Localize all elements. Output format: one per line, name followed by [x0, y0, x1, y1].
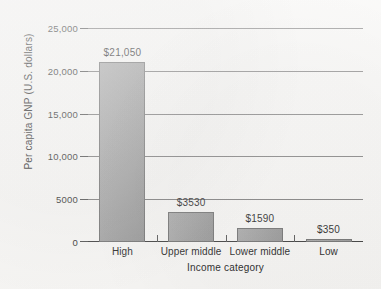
y-tick-label-0: 0: [73, 237, 78, 248]
y-axis-tick-labels: 25,000 20,000 15,000 10,000 5000 0: [0, 28, 82, 242]
x-separator-tick-2: [226, 235, 227, 242]
bar-high[interactable]: [99, 62, 145, 242]
y-tick-mark-0: [80, 241, 88, 242]
bar-value-low: $350: [317, 224, 340, 235]
bar-lower-middle[interactable]: [237, 228, 283, 242]
y-tick-mark-10000: [80, 156, 88, 157]
x-label-high: High: [112, 246, 133, 257]
y-tick-mark-25000: [80, 28, 88, 29]
x-separator-tick-1: [157, 235, 158, 242]
bar-value-lower-middle: $1590: [245, 213, 274, 224]
bar-value-high: $21,050: [104, 47, 142, 58]
y-tick-mark-20000: [80, 71, 88, 72]
x-label-low: Low: [319, 246, 338, 257]
y-tick-label-5000: 5000: [56, 194, 78, 205]
y-tick-mark-5000: [80, 199, 88, 200]
y-tick-label-10000: 10,000: [48, 151, 78, 162]
gridline-25000: [88, 28, 363, 29]
y-tick-label-25000: 25,000: [48, 23, 78, 34]
y-tick-mark-15000: [80, 114, 88, 115]
bar-value-upper-middle: $3530: [177, 197, 206, 208]
y-tick-label-20000: 20,000: [48, 65, 78, 76]
bar-low[interactable]: [306, 239, 352, 242]
bar-chart-figure: Per capita GNP (U.S. dollars) 25,000 20,…: [0, 0, 381, 289]
x-separator-tick-3: [294, 235, 295, 242]
y-tick-label-15000: 15,000: [48, 108, 78, 119]
plot-area: $21,050 $3530 $1590 $350: [88, 28, 363, 242]
x-label-lower-middle: Lower middle: [230, 246, 291, 257]
bar-upper-middle[interactable]: [168, 212, 214, 242]
x-axis-title: Income category: [88, 262, 363, 273]
x-label-upper-middle: Upper middle: [161, 246, 222, 257]
